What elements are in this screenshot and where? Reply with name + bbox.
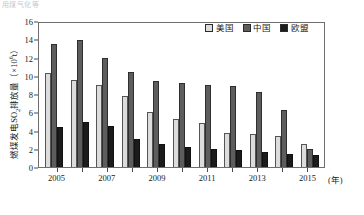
y-tick-label: 2 [29,146,33,155]
y-tick-label: 8 [29,91,33,100]
y-tick-label: 4 [29,127,33,136]
bar-group [71,23,89,167]
bar-欧盟-2010 [185,147,191,167]
y-axis-label-sup: 6 [8,56,14,59]
bar-group [96,23,114,167]
bar-group [199,23,217,167]
x-tick-mark [107,168,108,172]
x-axis-unit: (年) [328,173,343,185]
x-tick-label-2011: 2011 [199,173,216,183]
y-tick-label: 10 [25,73,34,82]
legend-swatch-icon [280,24,288,32]
legend-label: 美国 [216,24,234,33]
y-tick-label: 16 [25,18,34,27]
plot-area [38,22,325,168]
x-tick-label-2005: 2005 [48,173,65,183]
chart-figure: 用煤气化等 燃煤发电SO2排放量（×106t） 0246810121416 20… [0,0,364,215]
bar-group [122,23,140,167]
legend-label: 欧盟 [291,24,309,33]
bar-欧盟-2012 [236,150,242,167]
x-tick-mark [282,168,283,172]
bar-欧盟-2006 [83,122,89,167]
y-tick-label: 0 [29,164,33,173]
page-fragment-text: 用煤气化等 [2,0,62,9]
bar-group [250,23,268,167]
x-tick-mark [57,168,58,172]
x-axis-labels: 200520072009201120132015 [38,173,325,187]
y-tick-label: 12 [25,54,34,63]
x-tick-label-2007: 2007 [98,173,115,183]
x-tick-mark [307,168,308,172]
y-axis-ticks: 0246810121416 [16,22,38,168]
bar-欧盟-2009 [159,144,165,167]
bar-group [301,23,319,167]
y-tick-label: 14 [25,36,34,45]
legend-swatch-icon [243,24,251,32]
x-tick-mark [132,168,133,172]
bar-欧盟-2007 [108,126,114,167]
x-tick-mark [182,168,183,172]
y-tick-label: 6 [29,109,33,118]
bar-group [173,23,191,167]
x-tick-mark [257,168,258,172]
x-tick-mark [232,168,233,172]
x-tick-mark [82,168,83,172]
bar-欧盟-2014 [287,154,293,167]
x-tick-mark [207,168,208,172]
bar-欧盟-2013 [262,152,268,167]
bar-欧盟-2005 [57,127,63,167]
legend: 美国中国欧盟 [205,24,309,33]
x-tick-mark [157,168,158,172]
bar-欧盟-2015 [313,155,319,167]
legend-label: 中国 [253,24,271,33]
x-tick-label-2013: 2013 [249,173,266,183]
legend-item-中国: 中国 [243,24,272,33]
legend-item-美国: 美国 [205,24,234,33]
bar-group [224,23,242,167]
bar-group [147,23,165,167]
legend-swatch-icon [205,24,213,32]
bar-group [275,23,293,167]
bar-欧盟-2008 [134,139,140,167]
bar-欧盟-2011 [211,149,217,167]
legend-item-欧盟: 欧盟 [280,24,309,33]
bar-groups [39,23,324,167]
x-tick-label-2015: 2015 [299,173,316,183]
bar-group [45,23,63,167]
x-tick-label-2009: 2009 [148,173,165,183]
